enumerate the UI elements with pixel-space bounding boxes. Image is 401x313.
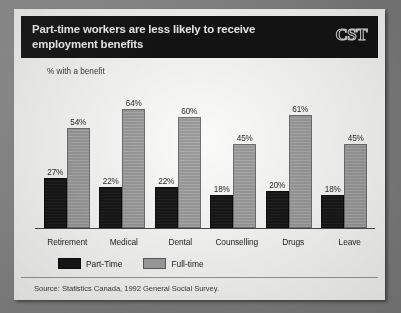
bar-value-label: 45% [237,134,253,143]
bar-group-dental: 22% 60% [150,98,206,228]
bar-full-time [122,109,145,228]
cst-logo: CST [335,25,367,45]
bar-part-time [321,195,344,228]
footer-divider [21,277,378,278]
bar-value-label: 54% [70,118,86,127]
bar-full-time [67,128,90,228]
bar-value-label: 22% [158,177,174,186]
bar-wrap-full-time: 64% [122,98,145,228]
legend-item-full-time: Full-time [143,258,203,269]
legend-label: Full-time [171,259,203,269]
legend-swatch-icon [58,258,81,269]
bar-value-label: 61% [292,105,308,114]
x-tick-label-retirement: Retirement [39,237,96,247]
bar-value-label: 18% [214,185,230,194]
scanned-page: Part-time workers are less likely to rec… [0,0,401,313]
y-axis-label: % with a benefit [47,67,105,76]
bar-group-retirement: 27% 54% [39,98,95,228]
bar-part-time [44,178,67,228]
bar-value-label: 22% [103,177,119,186]
bar-full-time [344,144,367,228]
bar-wrap-full-time: 60% [178,98,201,228]
legend-swatch-icon [143,258,166,269]
bar-full-time [233,144,256,228]
bar-value-label: 45% [348,134,364,143]
chart-legend: Part-Time Full-time [58,258,216,269]
bar-value-label: 64% [126,99,142,108]
chart-header-bar: Part-time workers are less likely to rec… [21,16,378,58]
x-tick-label-drugs: Drugs [265,237,322,247]
bar-wrap-part-time: 20% [266,98,289,228]
x-axis-tick-labels: Retirement Medical Dental Counselling Dr… [39,237,378,247]
bar-wrap-full-time: 54% [67,98,90,228]
x-tick-label-dental: Dental [152,237,209,247]
bar-group-leave: 18% 45% [317,98,373,228]
bar-part-time [155,187,178,228]
x-tick-label-medical: Medical [96,237,153,247]
bar-full-time [178,117,201,228]
x-tick-label-leave: Leave [322,237,379,247]
bar-wrap-full-time: 45% [344,98,367,228]
bar-value-label: 60% [181,107,197,116]
bar-wrap-part-time: 18% [210,98,233,228]
x-axis-line [35,228,375,229]
bar-wrap-part-time: 27% [44,98,67,228]
bar-groups: 27% 54% 22% 64% [39,98,372,228]
x-tick-label-counselling: Counselling [209,237,266,247]
legend-label: Part-Time [86,259,122,269]
bar-part-time [99,187,122,228]
bar-value-label: 20% [269,181,285,190]
bar-wrap-full-time: 61% [289,98,312,228]
bar-wrap-full-time: 45% [233,98,256,228]
bar-wrap-part-time: 22% [155,98,178,228]
plot-area: % with a benefit 27% 54% 22% [21,61,378,236]
bar-part-time [266,191,289,228]
bar-part-time [210,195,233,228]
bar-group-medical: 22% 64% [95,98,151,228]
bar-value-label: 27% [47,168,63,177]
page-title: Part-time workers are less likely to rec… [32,22,302,51]
bar-wrap-part-time: 18% [321,98,344,228]
bar-wrap-part-time: 22% [99,98,122,228]
source-note: Source: Statistics Canada, 1992 General … [34,284,219,293]
legend-item-part-time: Part-Time [58,258,122,269]
bar-group-counselling: 18% 45% [206,98,262,228]
bar-group-drugs: 20% 61% [261,98,317,228]
bar-full-time [289,115,312,228]
bar-value-label: 18% [325,185,341,194]
chart-card: Part-time workers are less likely to rec… [14,9,385,300]
